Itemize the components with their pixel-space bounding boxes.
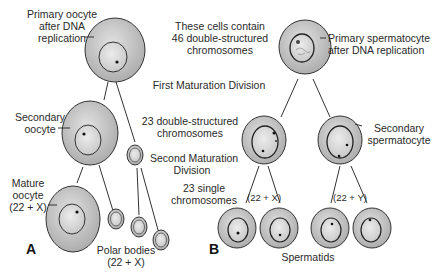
label-22-y: (22 + Y) <box>333 192 365 204</box>
spermatid-2 <box>260 208 298 248</box>
note-double-structured: 23 double-structured chromosomes <box>138 115 242 139</box>
secondary-oocyte-cell <box>62 101 118 165</box>
panel-letter-b: B <box>209 241 219 257</box>
spermatid-4 <box>353 208 391 248</box>
polar-body-3 <box>131 217 147 237</box>
label-line: Mature <box>4 177 52 189</box>
label-polar-bodies: Polar bodies (22 + X) <box>92 244 160 268</box>
label-secondary-oocyte: Secondary oocyte <box>12 111 68 135</box>
spermatid-3 <box>311 208 349 248</box>
label-22-x: (22 + X) <box>247 192 279 204</box>
label-line: chromosomes <box>138 127 242 139</box>
label-line: chromosomes <box>164 194 244 206</box>
label-line: Primary spermatocyte <box>328 32 430 44</box>
label-line: 46 double-structured <box>168 32 272 44</box>
label-line: 23 single <box>164 182 244 194</box>
primary-spermatocyte-cell <box>279 20 331 74</box>
label-primary-spermatocyte: Primary spermatocyte after DNA replicati… <box>328 32 430 56</box>
note-single: 23 single chromosomes <box>164 182 244 206</box>
label-line: oocyte <box>12 123 68 135</box>
label-line: Second Maturation <box>150 152 234 164</box>
label-line: chromosomes <box>168 44 272 56</box>
label-spermatids: Spermatids <box>268 251 348 263</box>
note-cells-contain: These cells contain 46 double-structured… <box>168 20 272 56</box>
note-first-division: First Maturation Division <box>146 79 272 91</box>
label-line: These cells contain <box>168 20 272 32</box>
label-line: 23 double-structured <box>138 115 242 127</box>
label-line: Division <box>150 164 234 176</box>
mature-oocyte-cell <box>46 186 100 252</box>
secondary-spermatocyte-right <box>318 116 362 164</box>
label-line: Secondary <box>362 122 436 134</box>
label-primary-oocyte: Primary oocyte after DNA replication <box>22 8 102 44</box>
label-line: replication <box>22 32 102 44</box>
secondary-spermatocyte-left <box>242 116 286 164</box>
note-second-division: Second Maturation Division <box>150 152 234 176</box>
label-secondary-spermatocyte: Secondary spermatocyte <box>362 122 436 146</box>
label-line: Primary oocyte <box>22 8 102 20</box>
label-line: oocyte <box>4 189 52 201</box>
polar-body-2 <box>108 209 124 229</box>
label-line: Polar bodies <box>92 244 160 256</box>
spermatid-1 <box>218 208 256 248</box>
label-line: after DNA replication <box>328 44 430 56</box>
panel-letter-a: A <box>26 241 36 257</box>
polar-body-1 <box>127 145 143 165</box>
label-line: Secondary <box>12 111 68 123</box>
label-mature-oocyte: Mature oocyte (22 + X) <box>4 177 52 213</box>
label-line: (22 + X) <box>92 256 160 268</box>
label-line: (22 + X) <box>4 201 52 213</box>
label-line: spermatocyte <box>362 134 436 146</box>
label-line: after DNA <box>22 20 102 32</box>
